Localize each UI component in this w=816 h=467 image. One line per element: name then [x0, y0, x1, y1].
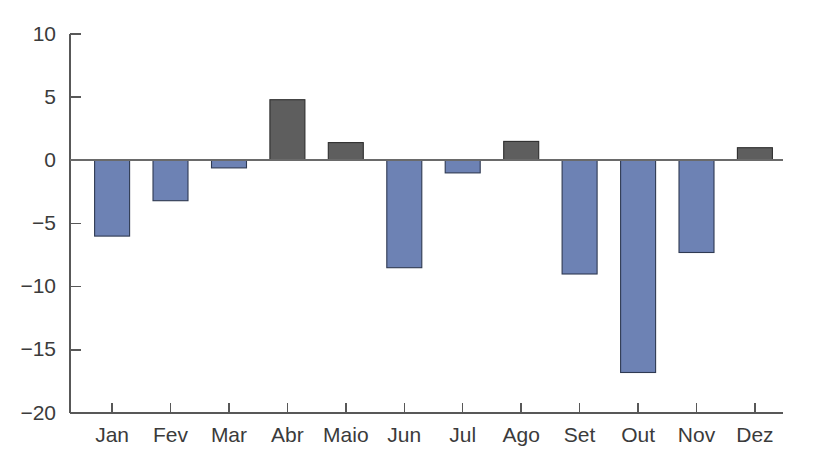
- y-tick-label: 5: [44, 85, 56, 108]
- y-tick-label: 0: [44, 148, 56, 171]
- y-tick-label: −5: [32, 211, 56, 234]
- x-tick-label: Nov: [678, 423, 716, 446]
- y-tick-label: 10: [33, 22, 56, 45]
- bar-abr: [270, 100, 305, 161]
- x-tick-label: Jun: [387, 423, 421, 446]
- x-tick-label: Abr: [271, 423, 304, 446]
- x-axis-ticks: JanFevMarAbrMaioJunJulAgoSetOutNovDez: [95, 403, 773, 446]
- x-tick-label: Maio: [323, 423, 369, 446]
- x-tick-label: Set: [564, 423, 596, 446]
- bar-nov: [679, 160, 714, 252]
- y-tick-label: −15: [20, 337, 56, 360]
- bar-fev: [153, 160, 188, 200]
- x-tick-label: Mar: [211, 423, 247, 446]
- bar-jan: [95, 160, 130, 236]
- bar-set: [562, 160, 597, 274]
- bar-out: [621, 160, 656, 372]
- x-tick-label: Jul: [449, 423, 476, 446]
- x-tick-label: Ago: [502, 423, 539, 446]
- bar-chart-figure: 1050−5−10−15−20JanFevMarAbrMaioJunJulAgo…: [0, 0, 816, 467]
- bar-jul: [445, 160, 480, 173]
- bar-mar: [212, 160, 247, 168]
- y-tick-label: −10: [20, 274, 56, 297]
- bar-jun: [387, 160, 422, 267]
- x-tick-label: Fev: [153, 423, 189, 446]
- x-tick-label: Out: [621, 423, 655, 446]
- y-axis-ticks: 1050−5−10−15−20: [20, 22, 81, 424]
- chart-canvas: 1050−5−10−15−20JanFevMarAbrMaioJunJulAgo…: [0, 0, 816, 467]
- x-tick-label: Jan: [95, 423, 129, 446]
- bar-group: [95, 100, 773, 373]
- bar-maio: [328, 143, 363, 161]
- bar-ago: [504, 141, 539, 160]
- y-tick-label: −20: [20, 401, 56, 424]
- x-tick-label: Dez: [736, 423, 773, 446]
- bar-dez: [737, 148, 772, 161]
